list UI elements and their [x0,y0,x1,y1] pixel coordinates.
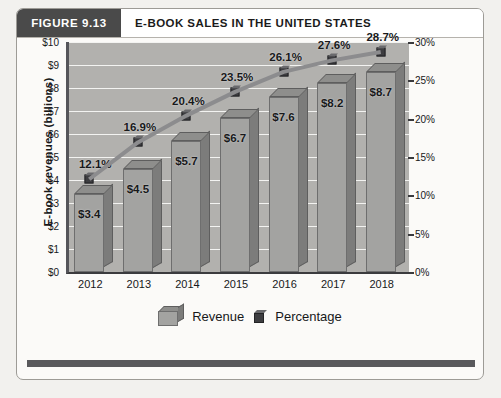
percentage-value-label: 27.6% [318,39,351,51]
y-tick-label: $6 [29,129,59,140]
y2-tick-label: 0% [415,267,451,278]
percentage-marker [279,67,288,76]
bar-value-label: $6.7 [220,132,250,144]
bar-side-face [104,184,113,267]
y2-axis-tick [408,272,414,274]
y-tick-label: $7 [29,106,59,117]
y-tick-label: $3 [29,198,59,209]
x-axis-tick-labels: 2012201320142015201620172018 [66,278,406,298]
bar-side-face [299,87,308,267]
chart-legend: Revenue Percentage [17,306,483,326]
bar-front-face [269,97,299,272]
percentage-marker [85,175,94,184]
y2-axis-tick [408,195,414,197]
footer-rule [27,360,475,367]
y2-tick-label: 20% [415,113,451,124]
y-tick-label: $0 [29,267,59,278]
percentage-marker [376,47,385,56]
legend-label-percentage: Percentage [275,309,342,324]
figure-number-tag: FIGURE 9.13 [17,9,121,37]
percentage-value-label: 20.4% [172,95,205,107]
bar-column: $8.2 [317,83,347,272]
plot-area: $3.4$4.5$5.7$6.7$7.6$8.2$8.712.1%16.9%20… [66,42,409,274]
revenue-cube-icon [158,306,184,326]
y2-axis-tick [408,80,414,82]
bar-side-face [201,131,210,267]
y2-axis-tick [408,119,414,121]
bar-side-face [250,108,259,267]
percentage-marker [133,138,142,147]
bar-column: $3.4 [74,194,104,272]
percentage-value-label: 23.5% [221,71,254,83]
y2-tick-label: 30% [415,37,451,48]
y-axis-tick-labels: $0$1$2$3$4$5$6$7$8$9$10 [29,38,59,351]
gridline [69,65,409,66]
y2-axis-tick [408,42,414,44]
bar-column: $5.7 [171,141,201,272]
figure-title: E-BOOK SALES IN THE UNITED STATES [135,9,371,37]
y-tick-label: $9 [29,60,59,71]
percentage-marker [231,87,240,96]
percentage-value-label: 16.9% [124,121,157,133]
bar-column: $7.6 [269,97,299,272]
bar-front-face [366,72,396,272]
bar-value-label: $3.4 [74,208,104,220]
y2-tick-label: 10% [415,190,451,201]
percentage-marker [182,111,191,120]
y2-tick-label: 5% [415,228,451,239]
bar-value-label: $5.7 [171,155,201,167]
bar-front-face [317,83,347,272]
percentage-marker-icon [254,310,267,323]
bar-column: $8.7 [366,72,396,272]
legend-label-revenue: Revenue [192,309,244,324]
y2-axis-tick-labels: 0%5%10%15%20%25%30% [415,38,455,351]
percentage-marker [328,56,337,65]
legend-entry-revenue: Revenue [158,306,244,326]
y-tick-label: $5 [29,152,59,163]
y-tick-label: $2 [29,221,59,232]
y-tick-label: $8 [29,83,59,94]
bar-value-label: $7.6 [269,111,299,123]
gridline [69,42,409,43]
figure-header: FIGURE 9.13 E-BOOK SALES IN THE UNITED S… [17,9,483,38]
legend-entry-percentage: Percentage [254,309,342,324]
x-tick-label: 2018 [352,278,412,290]
y2-tick-label: 25% [415,75,451,86]
chart-canvas: E-book revenues (billions) $0$1$2$3$4$5$… [17,38,483,351]
bar-value-label: $8.2 [317,97,347,109]
y-tick-label: $4 [29,175,59,186]
bar-side-face [347,73,356,267]
plot-inner: $3.4$4.5$5.7$6.7$7.6$8.2$8.712.1%16.9%20… [69,42,409,272]
bar-side-face [396,62,405,267]
bar-side-face [153,158,162,267]
bar-value-label: $4.5 [123,183,153,195]
bar-column: $4.5 [123,169,153,273]
bar-column: $6.7 [220,118,250,272]
y-tick-label: $10 [29,37,59,48]
bar-front-face [74,194,104,272]
y2-axis-tick [408,157,414,159]
bar-value-label: $8.7 [366,86,396,98]
percentage-value-label: 12.1% [79,158,112,170]
y2-tick-label: 15% [415,152,451,163]
percentage-value-label: 26.1% [269,51,302,63]
y-tick-label: $1 [29,244,59,255]
y2-axis-tick [408,234,414,236]
percentage-value-label: 28.7% [366,31,399,43]
figure-panel: FIGURE 9.13 E-BOOK SALES IN THE UNITED S… [16,8,484,380]
